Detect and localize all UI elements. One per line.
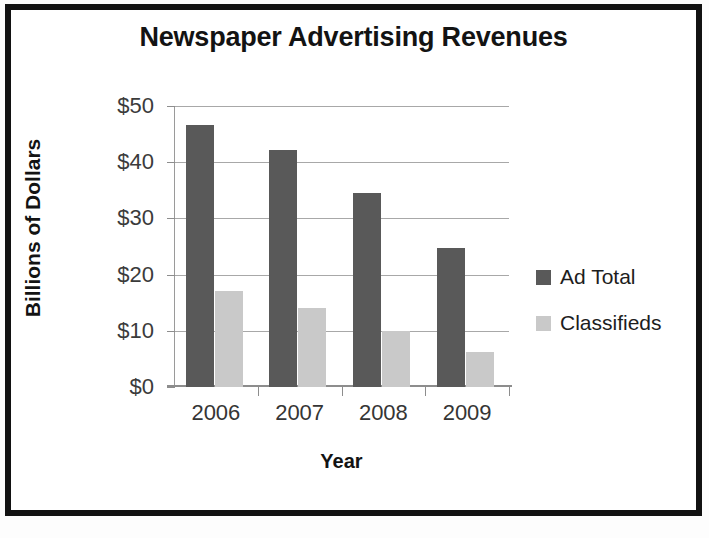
- x-separator-tick: [509, 386, 510, 396]
- bar-2007-classifieds: [298, 308, 326, 387]
- y-tick-mark: [167, 387, 175, 388]
- x-axis-tick-labels: 2006200720082009: [174, 400, 509, 430]
- bar-2008-ad-total: [353, 193, 381, 387]
- x-tick-label: 2006: [191, 400, 240, 426]
- x-axis-title: Year: [174, 450, 509, 473]
- bar-group: [425, 106, 509, 387]
- y-axis-tick-labels: $0$10$20$30$40$50: [66, 10, 154, 510]
- bar-group: [258, 106, 342, 387]
- y-axis-title-text: Billions of Dollars: [21, 118, 45, 338]
- bar-2009-classifieds: [466, 352, 494, 387]
- bar-group: [342, 106, 426, 387]
- y-tick-label: $0: [66, 374, 154, 400]
- bar-group: [174, 106, 258, 387]
- x-separator-tick: [342, 386, 343, 396]
- chart-screenshot: Newspaper Advertising Revenues Billions …: [0, 0, 709, 538]
- bar-2009-ad-total: [437, 248, 465, 387]
- x-separator-tick: [258, 386, 259, 396]
- x-tick-label: 2007: [275, 400, 324, 426]
- x-separator-tick: [425, 386, 426, 396]
- legend-label: Classifieds: [560, 311, 662, 335]
- chart-legend: Ad TotalClassifieds: [536, 265, 662, 357]
- y-tick-label: $20: [66, 262, 154, 288]
- x-tick-label: 2009: [443, 400, 492, 426]
- y-axis-title: Billions of Dollars: [21, 0, 45, 118]
- legend-swatch-icon: [536, 316, 551, 331]
- y-tick-label: $10: [66, 318, 154, 344]
- legend-swatch-icon: [536, 270, 551, 285]
- plot-area: [174, 106, 509, 387]
- bar-2006-ad-total: [186, 125, 214, 387]
- chart-canvas: Newspaper Advertising Revenues Billions …: [11, 10, 696, 510]
- y-tick-label: $30: [66, 205, 154, 231]
- legend-item-classifieds[interactable]: Classifieds: [536, 311, 662, 335]
- bar-2007-ad-total: [269, 150, 297, 387]
- y-tick-label: $40: [66, 149, 154, 175]
- legend-item-ad-total[interactable]: Ad Total: [536, 265, 662, 289]
- y-tick-label: $50: [66, 93, 154, 119]
- bar-2008-classifieds: [382, 331, 410, 387]
- x-tick-label: 2008: [359, 400, 408, 426]
- chart-frame: Newspaper Advertising Revenues Billions …: [5, 4, 702, 516]
- bar-2006-classifieds: [215, 291, 243, 387]
- legend-label: Ad Total: [560, 265, 636, 289]
